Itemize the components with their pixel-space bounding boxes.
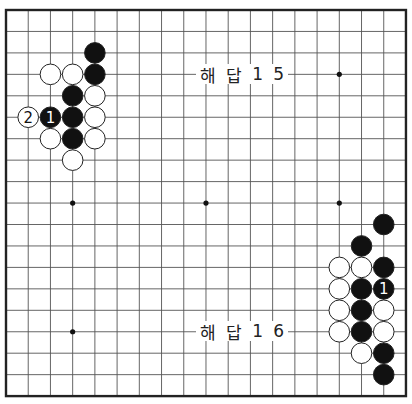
- black-stone: [351, 236, 372, 257]
- title-char: 해: [200, 319, 216, 344]
- black-stone: [373, 257, 394, 278]
- black-stone: [85, 43, 106, 64]
- white-stone: [40, 128, 61, 149]
- black-stone: [351, 300, 372, 321]
- star-point: [203, 200, 208, 205]
- black-stone: [351, 279, 372, 300]
- move-number: 1: [46, 109, 56, 127]
- title-char: 답: [226, 319, 242, 344]
- black-stone: [85, 64, 106, 85]
- black-stone: 1: [373, 279, 394, 300]
- white-stone: [329, 257, 350, 278]
- title-char: 1: [252, 321, 263, 341]
- diagram-title-16: 해 답 1 6: [196, 321, 288, 341]
- white-stone: [85, 107, 106, 128]
- black-stone: [351, 321, 372, 342]
- star-point: [70, 329, 75, 334]
- black-stone: [373, 364, 394, 385]
- title-char: 해: [200, 62, 216, 87]
- title-char: 6: [273, 321, 284, 341]
- black-stone: [62, 86, 83, 107]
- white-stone: [351, 343, 372, 364]
- white-stone: [85, 128, 106, 149]
- star-point: [337, 200, 342, 205]
- white-stone: [85, 86, 106, 107]
- title-char: 답: [226, 62, 242, 87]
- diagram-title-15: 해 답 1 5: [196, 64, 288, 84]
- white-stone: [329, 300, 350, 321]
- black-stone: [62, 107, 83, 128]
- move-number: 1: [379, 280, 389, 298]
- star-point: [337, 72, 342, 77]
- title-char: 5: [273, 64, 284, 84]
- white-stone: [373, 300, 394, 321]
- white-stone: [351, 257, 372, 278]
- black-stone: [62, 128, 83, 149]
- white-stone: [329, 279, 350, 300]
- white-stone: [62, 64, 83, 85]
- title-char: 1: [252, 64, 263, 84]
- white-stone: [62, 150, 83, 171]
- black-stone: [373, 343, 394, 364]
- white-stone: [329, 321, 350, 342]
- white-stone: 2: [18, 107, 39, 128]
- black-stone: [373, 214, 394, 235]
- black-stone: 1: [40, 107, 61, 128]
- star-point: [70, 200, 75, 205]
- white-stone: [40, 64, 61, 85]
- move-number: 2: [23, 109, 33, 127]
- white-stone: [373, 321, 394, 342]
